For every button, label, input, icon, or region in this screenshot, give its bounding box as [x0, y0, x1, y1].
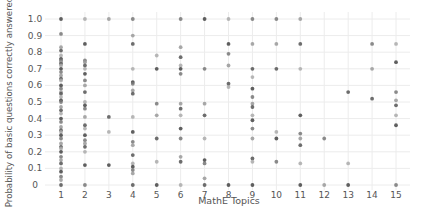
data-point: [394, 183, 398, 187]
data-point: [298, 137, 302, 141]
y-tick-label: 1.0: [28, 14, 43, 24]
data-point: [59, 162, 63, 166]
data-point: [83, 64, 87, 68]
data-point: [251, 87, 255, 91]
data-point: [370, 97, 374, 101]
data-point: [83, 72, 87, 76]
data-point: [346, 183, 350, 187]
data-point: [298, 143, 302, 147]
data-point: [83, 138, 87, 142]
data-point: [298, 67, 302, 71]
data-point: [59, 84, 63, 88]
data-point: [251, 118, 255, 122]
data-point: [131, 34, 135, 38]
data-point: [179, 64, 183, 68]
x-tick-label: 6: [178, 190, 184, 200]
data-point: [83, 67, 87, 71]
data-point: [59, 32, 63, 36]
data-point: [179, 17, 183, 21]
data-point: [179, 102, 183, 106]
data-point: [83, 145, 87, 149]
x-tick-label: 11: [295, 190, 306, 200]
data-point: [131, 130, 135, 134]
data-point: [59, 79, 63, 83]
data-point: [203, 183, 207, 187]
data-point: [83, 17, 87, 21]
x-tick-label: 13: [342, 190, 353, 200]
data-point: [83, 123, 87, 127]
data-point: [59, 54, 63, 58]
data-point: [179, 155, 183, 159]
scatter-chart: 00.10.20.30.40.50.60.70.80.91.0 12345678…: [0, 0, 427, 220]
data-point: [394, 60, 398, 64]
data-point: [179, 137, 183, 141]
data-point: [179, 107, 183, 111]
data-point: [131, 115, 135, 119]
data-point: [107, 17, 111, 21]
data-point: [83, 100, 87, 104]
y-tick-label: 0: [32, 180, 38, 190]
data-point: [131, 183, 135, 187]
data-point: [59, 155, 63, 159]
data-point: [370, 42, 374, 46]
data-point: [298, 132, 302, 136]
data-point: [59, 137, 63, 141]
data-point: [131, 168, 135, 172]
data-point: [251, 160, 255, 164]
data-point: [394, 103, 398, 107]
data-point: [155, 160, 159, 164]
data-point: [59, 49, 63, 53]
y-axis-ticks: 00.10.20.30.40.50.60.70.80.91.0: [28, 14, 43, 190]
data-point: [131, 67, 135, 71]
data-point: [59, 112, 63, 116]
data-point: [83, 133, 87, 137]
data-point: [227, 52, 231, 56]
y-tick-label: 0.4: [28, 114, 43, 124]
data-point: [227, 85, 231, 89]
data-point: [298, 113, 302, 117]
data-point: [83, 107, 87, 111]
data-point: [298, 183, 302, 187]
data-point: [179, 67, 183, 71]
data-point: [83, 103, 87, 107]
x-tick-label: 15: [390, 190, 401, 200]
data-point: [59, 167, 63, 171]
data-point: [203, 17, 207, 21]
data-point: [131, 162, 135, 166]
data-point: [394, 90, 398, 94]
data-point: [155, 183, 159, 187]
data-point: [274, 130, 278, 134]
data-point: [59, 70, 63, 74]
data-point: [251, 113, 255, 117]
data-point: [59, 170, 63, 174]
data-point: [227, 42, 231, 46]
data-point: [131, 153, 135, 157]
data-point: [394, 98, 398, 102]
data-point: [203, 113, 207, 117]
y-tick-label: 0.5: [28, 97, 42, 107]
data-point: [83, 163, 87, 167]
data-point: [155, 54, 159, 58]
y-tick-label: 0.7: [28, 64, 42, 74]
data-point: [251, 67, 255, 71]
data-point: [203, 67, 207, 71]
x-tick-label: 1: [58, 190, 64, 200]
data-point: [251, 17, 255, 21]
data-point: [179, 183, 183, 187]
data-point: [274, 137, 278, 141]
data-point: [155, 113, 159, 117]
data-point: [83, 79, 87, 83]
data-point: [155, 137, 159, 141]
data-point: [203, 158, 207, 162]
data-point: [83, 150, 87, 154]
data-point: [227, 82, 231, 86]
data-point: [251, 157, 255, 161]
data-point: [59, 130, 63, 134]
data-point: [394, 123, 398, 127]
data-point: [394, 42, 398, 46]
data-point: [83, 115, 87, 119]
data-point: [370, 67, 374, 71]
data-point: [59, 92, 63, 96]
data-point: [251, 127, 255, 131]
data-point: [179, 55, 183, 59]
